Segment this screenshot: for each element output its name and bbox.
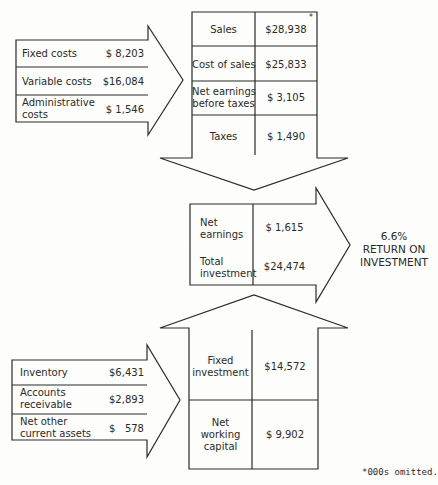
- cost-of-sales-label: Cost of sales: [192, 59, 255, 71]
- net-earnings-line1: Net: [200, 217, 243, 229]
- result-arrow: [190, 188, 350, 302]
- variable-costs-value: $16,084: [100, 76, 144, 88]
- ar-line2: receivable: [20, 399, 72, 411]
- noca-line2: current assets: [20, 428, 91, 440]
- taxes-label: Taxes: [192, 131, 255, 143]
- footnote: *000s omitted.: [362, 466, 438, 478]
- nebt-label-line2: before taxes: [192, 98, 255, 110]
- fixed-investment-line1: Fixed: [189, 355, 252, 367]
- net-earnings-before-taxes-value: $ 3,105: [255, 92, 317, 104]
- admin-costs-label: Administrative costs: [22, 97, 95, 121]
- nwc-line3: capital: [189, 441, 252, 453]
- nwc-line2: working: [189, 429, 252, 441]
- net-other-current-assets-label: Net other current assets: [20, 416, 91, 440]
- sales-value: $28,938: [255, 24, 317, 36]
- total-investment-line2: investment: [200, 268, 256, 280]
- total-investment-value: $24,474: [253, 261, 316, 273]
- net-other-current-assets-value: $ 578: [100, 423, 144, 435]
- taxes-value: $ 1,490: [255, 131, 317, 143]
- admin-costs-label-line2: costs: [22, 109, 95, 121]
- inventory-label: Inventory: [20, 367, 68, 379]
- fixed-investment-value: $14,572: [252, 361, 318, 373]
- roi-percent: 6.6%: [352, 230, 436, 243]
- sales-label: Sales: [192, 24, 255, 36]
- fixed-investment-label: Fixed investment: [189, 355, 252, 379]
- noca-line1: Net other: [20, 416, 91, 428]
- net-earnings-value: $ 1,615: [253, 222, 316, 234]
- cost-of-sales-value: $25,833: [255, 59, 317, 71]
- roi-line2: INVESTMENT: [352, 256, 436, 269]
- return-on-investment: 6.6% RETURN ON INVESTMENT: [352, 230, 436, 269]
- net-working-capital-label: Net working capital: [189, 417, 252, 453]
- accounts-receivable-label: Accounts receivable: [20, 387, 72, 411]
- fixed-investment-line2: investment: [189, 367, 252, 379]
- fixed-costs-label: Fixed costs: [22, 48, 77, 60]
- roi-line1: RETURN ON: [352, 243, 436, 256]
- admin-costs-value: $ 1,546: [100, 104, 144, 116]
- fixed-costs-value: $ 8,203: [100, 48, 144, 60]
- accounts-receivable-value: $2,893: [100, 394, 144, 406]
- net-earnings-line2: earnings: [200, 229, 243, 241]
- net-earnings-label: Net earnings: [200, 217, 243, 241]
- total-investment-label: Total investment: [200, 256, 256, 280]
- net-working-capital-value: $ 9,902: [252, 429, 318, 441]
- inventory-value: $6,431: [100, 367, 144, 379]
- admin-costs-label-line1: Administrative: [22, 97, 95, 109]
- net-earnings-before-taxes-label: Net earnings before taxes: [192, 86, 255, 110]
- total-investment-line1: Total: [200, 256, 256, 268]
- footnote-asterisk: *: [309, 12, 313, 24]
- nwc-line1: Net: [189, 417, 252, 429]
- nebt-label-line1: Net earnings: [192, 86, 255, 98]
- variable-costs-label: Variable costs: [22, 76, 92, 88]
- ar-line1: Accounts: [20, 387, 72, 399]
